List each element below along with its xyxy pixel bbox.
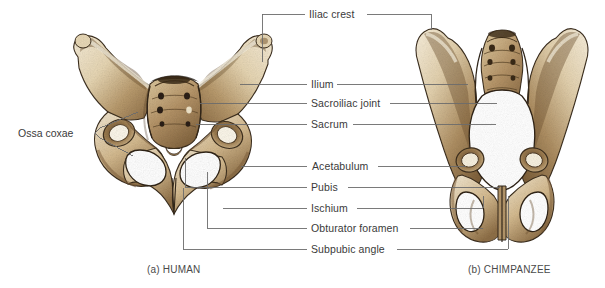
- label-sacroiliac-joint: Sacroiliac joint: [311, 98, 380, 109]
- label-acetabulum: Acetabulum: [312, 161, 368, 172]
- label-iliac-crest: Iliac crest: [309, 9, 354, 20]
- sacrum-region: [147, 77, 201, 149]
- leader-obturator-foramen: [207, 172, 483, 228]
- caption-chimpanzee: (b) CHIMPANZEE: [468, 265, 551, 275]
- pelvis-comparison-figure: Ossa coxae Iliac crest Ilium Sacroiliac …: [0, 0, 605, 288]
- label-ossa-coxae: Ossa coxae: [18, 128, 73, 139]
- leader-iliac-crest: [262, 14, 431, 62]
- label-ischium: Ischium: [311, 203, 348, 214]
- figure-canvas: [0, 0, 605, 288]
- leader-ischium: [223, 196, 483, 208]
- label-sacrum: Sacrum: [311, 119, 348, 130]
- chimpanzee-pelvis-illustration: [416, 29, 588, 243]
- label-ilium: Ilium: [311, 79, 334, 90]
- label-obturator-foramen: Obturator foramen: [311, 223, 399, 234]
- label-pubis: Pubis: [311, 182, 338, 193]
- label-subpubic-angle: Subpubic angle: [311, 244, 385, 255]
- caption-human: (a) HUMAN: [147, 265, 200, 275]
